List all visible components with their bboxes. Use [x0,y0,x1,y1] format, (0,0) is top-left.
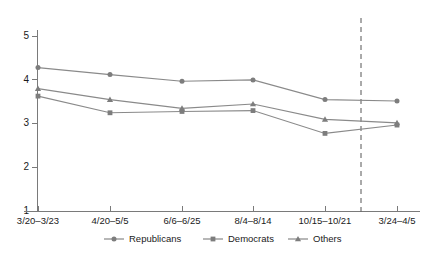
x-tick-label: 3/24–4/5 [379,215,416,226]
series-path [38,68,397,101]
y-tick-label: 3 [23,117,29,128]
data-point-circle [323,97,328,102]
series-others [35,86,400,126]
data-point-square [108,110,113,115]
y-tick-label: 5 [23,30,29,41]
data-point-square [36,94,41,99]
x-tick-label: 4/20–5/5 [92,215,129,226]
x-axis-group: 3/20–3/234/20–5/56/6–6/258/4–8/1410/15–1… [17,206,420,226]
data-point-circle [395,98,400,103]
x-tick-group: 3/20–3/234/20–5/56/6–6/258/4–8/1410/15–1… [17,206,416,226]
y-tick-group: 12345 [23,30,37,217]
y-axis-group: 12345 [23,30,37,217]
x-tick-label: 8/4–8/14 [235,215,272,226]
series-republicans [36,65,400,103]
data-point-circle [180,79,185,84]
y-tick-label: 2 [23,161,29,172]
data-point-circle [36,65,41,70]
legend-label: Democrats [228,233,274,244]
x-tick-label: 10/15–10/21 [299,215,352,226]
chart-container: 12345 3/20–3/234/20–5/56/6–6/258/4–8/141… [0,0,432,256]
legend-label: Others [313,233,342,244]
x-tick-label: 3/20–3/23 [17,215,59,226]
data-point-square [251,108,256,113]
legend-item-others[interactable]: Others [288,233,342,244]
series-path [38,89,397,123]
data-point-circle [108,72,113,77]
data-point-triangle [35,86,41,91]
line-chart: 12345 3/20–3/234/20–5/56/6–6/258/4–8/141… [0,0,432,256]
data-point-square [323,131,328,136]
legend-marker-circle [112,237,117,242]
series-group [35,65,400,136]
x-tick-label: 6/6–6/25 [164,215,201,226]
legend-label: Republicans [129,233,182,244]
legend-marker-square [211,237,216,242]
y-tick-label: 4 [23,74,29,85]
legend-item-democrats[interactable]: Democrats [203,233,274,244]
series-path [38,96,397,133]
legend-item-republicans[interactable]: Republicans [104,233,182,244]
data-point-circle [251,77,256,82]
chart-legend: RepublicansDemocratsOthers [104,233,342,244]
